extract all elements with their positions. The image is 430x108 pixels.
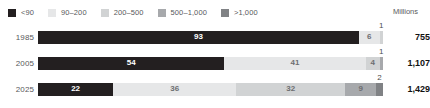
- segment-value-label: 32: [286, 85, 295, 93]
- stacked-bar: 544141: [38, 57, 383, 70]
- bar-segment[interactable]: 36: [113, 83, 236, 96]
- legend-item[interactable]: 200–500: [101, 8, 144, 17]
- bar-segment[interactable]: 32: [236, 83, 345, 96]
- legend-swatch-icon: [221, 9, 229, 17]
- row-total-label: 755: [383, 32, 430, 42]
- row-year-label: 2025: [0, 85, 38, 94]
- segment-value-label: 41: [291, 59, 300, 67]
- row-total-label: 1,429: [383, 84, 430, 94]
- legend-swatch-icon: [48, 9, 56, 17]
- bar-segment[interactable]: 6: [359, 31, 380, 44]
- row-year-label: 2005: [0, 59, 38, 68]
- legend-units-label: Millions: [393, 7, 418, 16]
- legend-item[interactable]: <90: [8, 8, 34, 17]
- legend-item[interactable]: 500–1,000: [158, 8, 207, 17]
- legend-swatch-icon: [101, 9, 109, 17]
- chart-row: 2025223632921,429: [0, 76, 426, 102]
- segment-value-label: 9: [359, 85, 363, 93]
- legend-item-label: <90: [21, 8, 34, 17]
- bar-segment[interactable]: 41: [224, 57, 365, 70]
- row-year-label: 1985: [0, 33, 38, 42]
- legend-item-label: 200–500: [114, 8, 144, 17]
- legend-item[interactable]: 90–200: [48, 8, 87, 17]
- chart-legend: <9090–200200–500500–1,000>1,000 Millions: [8, 6, 418, 19]
- chart-row: 19859361755: [0, 24, 426, 50]
- bar-segment[interactable]: 1: [380, 57, 383, 70]
- segment-value-label: 93: [194, 33, 203, 41]
- bar-segment[interactable]: 4: [366, 57, 380, 70]
- segment-value-label: 36: [170, 85, 179, 93]
- segment-callout-label: 1: [379, 48, 383, 56]
- legend-item-label: 90–200: [61, 8, 87, 17]
- bar-segment[interactable]: 22: [38, 83, 113, 96]
- stacked-bar: 9361: [38, 31, 383, 44]
- chart-rows: 1985936175520055441411,1072025223632921,…: [0, 24, 426, 102]
- bar-segment[interactable]: 2: [376, 83, 383, 96]
- legend-item[interactable]: >1,000: [221, 8, 258, 17]
- row-total-label: 1,107: [383, 58, 430, 68]
- segment-value-label: 4: [370, 59, 374, 67]
- chart-row: 20055441411,107: [0, 50, 426, 76]
- segment-callout-label: 1: [379, 22, 383, 30]
- bar-segment[interactable]: 93: [38, 31, 359, 44]
- legend-swatch-icon: [8, 9, 16, 17]
- stacked-bar: 22363292: [38, 83, 383, 96]
- legend-items: <9090–200200–500500–1,000>1,000: [8, 8, 272, 17]
- bar-segment[interactable]: 1: [380, 31, 383, 44]
- bar-segment[interactable]: 54: [38, 57, 224, 70]
- segment-value-label: 22: [71, 85, 80, 93]
- bar-segment[interactable]: 9: [345, 83, 376, 96]
- segment-value-label: 54: [127, 59, 136, 67]
- legend-item-label: 500–1,000: [171, 8, 207, 17]
- segment-value-label: 6: [367, 33, 371, 41]
- legend-item-label: >1,000: [234, 8, 258, 17]
- segment-callout-label: 2: [377, 74, 381, 82]
- legend-swatch-icon: [158, 9, 166, 17]
